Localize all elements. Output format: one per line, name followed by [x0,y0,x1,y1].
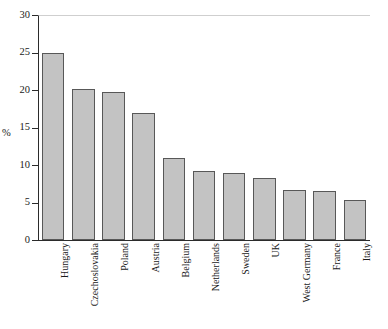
bar [102,92,125,240]
y-tick-label-5: 5 [8,197,30,208]
y-tick-label-30: 30 [8,10,30,21]
x-tick-label-text: West Germany [302,243,312,302]
x-tick-label-text: Czechoslovakia [90,243,100,306]
x-tick-label: Austria [148,243,158,272]
x-axis-line [38,240,370,241]
x-tick-label: Netherlands [208,243,218,291]
bar [132,113,155,240]
x-tick-label-text: Austria [151,243,161,272]
x-tick-label-text: Netherlands [211,243,221,291]
bar [283,190,306,240]
x-tick-label: Italy [359,243,369,261]
y-tick-label-20: 20 [8,85,30,96]
bar-chart: % 0 5 10 15 20 25 30 HungaryCzechoslovak… [0,0,388,329]
x-tick-label-text: Hungary [60,243,70,278]
y-tick-label-10: 10 [8,160,30,171]
bar [223,173,246,240]
x-tick-label: Poland [117,243,127,271]
bar [163,158,186,240]
bars-layer [38,15,370,240]
x-tick-label-text: UK [271,243,281,257]
x-tick-label-text: Belgium [181,243,191,277]
x-tick-label: UK [268,243,278,257]
bar [193,171,216,240]
y-tick-label-0: 0 [8,235,30,246]
x-axis-labels: HungaryCzechoslovakiaPolandAustriaBelgiu… [38,243,370,329]
y-tick-label-25: 25 [8,47,30,58]
x-tick-label: Czechoslovakia [87,243,97,306]
bar [42,53,65,241]
x-tick-label-text: France [332,243,342,270]
bar [253,178,276,240]
bar [72,89,95,240]
bar [344,200,367,240]
x-tick-label-text: Sweden [241,243,251,275]
x-tick-label: Hungary [57,243,67,278]
x-tick-label-text: Poland [120,243,130,271]
y-tick-label-15: 15 [8,122,30,133]
x-tick-label: West Germany [299,243,309,302]
bar [313,191,336,241]
x-tick-label: France [329,243,339,270]
x-tick-label: Belgium [178,243,188,277]
x-tick-label: Sweden [238,243,248,275]
x-tick-label-text: Italy [362,243,372,261]
